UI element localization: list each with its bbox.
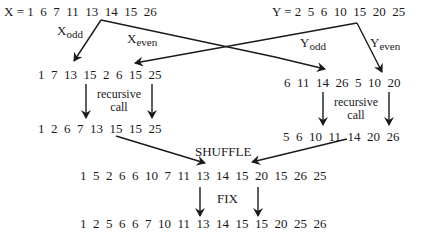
recursive-call-left-label: recursivecall	[86, 88, 152, 114]
x-even-label: Xeven	[127, 32, 157, 49]
right-sorted-sequence: 5 6 10 11 14 20 26	[283, 130, 400, 144]
merge-diagram: X = 1 6 7 11 13 14 15 26 Y = 2 5 6 10 15…	[0, 0, 434, 235]
shuffle-label: SHUFFLE	[195, 145, 251, 159]
y-even-label: Yeven	[370, 36, 400, 53]
left-sorted-sequence: 1 2 6 7 13 15 15 25	[38, 122, 162, 136]
y-sequence: Y = 2 5 6 10 15 20 25	[272, 5, 405, 19]
x-sequence: X = 1 6 7 11 13 14 15 26	[4, 5, 157, 19]
right-split-sequence: 6 11 14 26 5 10 20	[284, 76, 401, 90]
shuffled-sequence: 1 5 2 6 6 10 7 11 13 14 15 20 15 26 25	[80, 169, 327, 183]
shuffle-left-arrow	[116, 136, 205, 163]
fix-label: FIX	[217, 192, 238, 206]
y-odd-label: Yodd	[300, 36, 326, 53]
recursive-call-right-label: recursivecall	[323, 96, 389, 122]
left-split-sequence: 1 7 13 15 2 6 15 25	[38, 68, 162, 82]
final-sequence: 1 2 5 6 6 7 10 11 13 14 15 15 20 25 26	[80, 217, 327, 231]
x-odd-label: Xodd	[57, 24, 83, 41]
